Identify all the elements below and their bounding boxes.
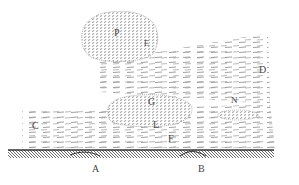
label-e: E [144, 40, 149, 48]
label-b: B [198, 164, 205, 174]
ground [8, 150, 274, 158]
label-f: F [168, 134, 174, 144]
label-n: N [231, 96, 238, 105]
label-g: G [148, 97, 155, 107]
label-d: D [259, 65, 266, 75]
diagram-canvas [0, 0, 299, 185]
label-l: L [153, 120, 159, 130]
label-p: P [114, 28, 120, 38]
cloud-n [218, 110, 258, 120]
label-a: A [92, 164, 99, 174]
label-c: C [32, 121, 39, 131]
